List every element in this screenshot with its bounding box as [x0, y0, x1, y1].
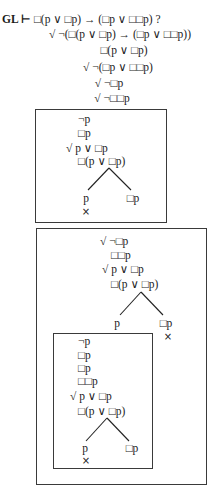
world3-branch-left: p [82, 441, 88, 455]
world3-branch-right: □p [126, 441, 139, 455]
world3-branch-lines [0, 0, 220, 497]
world3-left-closed-mark: × [82, 454, 90, 468]
